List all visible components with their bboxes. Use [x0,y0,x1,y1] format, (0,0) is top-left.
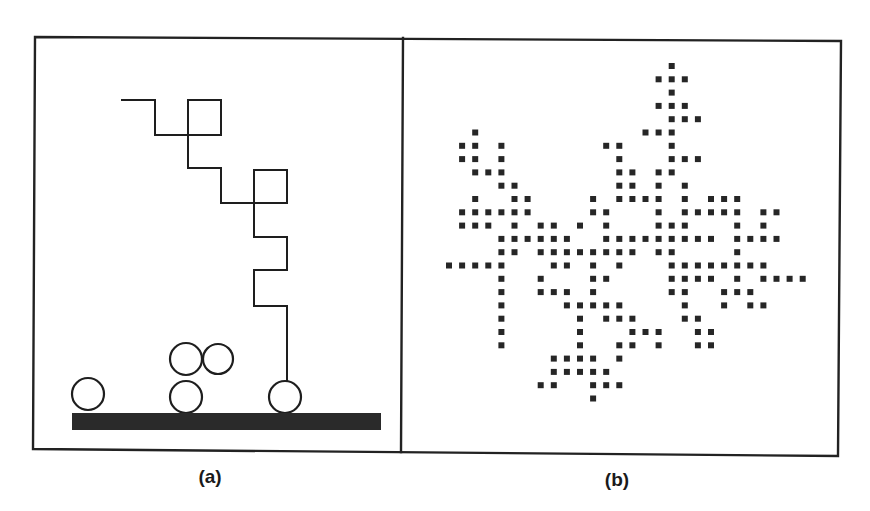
cluster-dot [708,196,714,202]
cluster-dot [774,236,780,242]
cluster-dot [734,289,740,295]
cluster-dot [629,316,635,322]
cluster-dot [629,236,635,242]
cluster-dot [669,143,675,149]
cluster-dot [721,263,727,269]
cluster-dot [643,329,649,335]
cluster-dot [498,183,504,189]
cluster-dot [629,342,635,348]
cluster-dot [577,316,583,322]
cluster-dot [787,276,793,282]
cluster-dot [682,156,688,162]
substrate-bar [72,413,381,430]
cluster-dot [682,316,688,322]
cluster-dot [551,263,557,269]
cluster-dot [498,276,504,282]
cluster-dot [577,369,583,375]
cluster-dot [603,209,609,215]
cluster-dot [747,302,753,308]
cluster-dot [498,236,504,242]
cluster-dot [512,183,518,189]
cluster-dot [538,289,544,295]
cluster-dot [656,236,662,242]
cluster-dot [682,103,688,109]
cluster-dot [682,183,688,189]
cluster-dot [721,302,727,308]
cluster-dot [603,143,609,149]
cluster-dot [564,236,570,242]
cluster-dot [459,143,465,149]
cluster-dot [695,116,701,122]
cluster-dot [734,196,740,202]
cluster-dot [564,369,570,375]
cluster-dot [538,249,544,255]
cluster-dot [485,169,491,175]
cluster-dot [760,223,766,229]
lattice-cluster-dots [446,63,806,402]
cluster-dot [682,209,688,215]
cluster-dot [656,249,662,255]
cluster-dot [760,263,766,269]
cluster-dot [616,156,622,162]
particle-circle [170,343,202,375]
cluster-dot [459,263,465,269]
cluster-dot [577,356,583,362]
cluster-dot [695,209,701,215]
cluster-dot [669,169,675,175]
cluster-dot [669,289,675,295]
cluster-dot [616,183,622,189]
cluster-dot [629,249,635,255]
cluster-dot [590,356,596,362]
cluster-dot [643,130,649,136]
cluster-dot [643,196,649,202]
cluster-dot [708,342,714,348]
cluster-dot [485,263,491,269]
panel-b-dla-cluster [446,63,806,402]
cluster-dot [564,356,570,362]
cluster-dot [525,236,531,242]
cluster-dot [603,236,609,242]
cluster-dot [459,223,465,229]
cluster-dot [498,249,504,255]
cluster-dot [760,236,766,242]
cluster-dot [629,329,635,335]
cluster-dot [734,223,740,229]
cluster-dot [682,116,688,122]
cluster-dot [669,156,675,162]
cluster-dot [577,329,583,335]
cluster-dot [590,302,596,308]
cluster-dot [734,236,740,242]
cluster-dot [656,209,662,215]
particle-circle [203,344,233,374]
cluster-dot [747,263,753,269]
cluster-dot [551,223,557,229]
cluster-dot [669,249,675,255]
panel-b-label: (b) [605,470,629,489]
cluster-dot [734,249,740,255]
cluster-dot [774,209,780,215]
cluster-dot [603,316,609,322]
cluster-dot [512,223,518,229]
cluster-dot [577,342,583,348]
cluster-dot [577,223,583,229]
cluster-dot [472,169,478,175]
figure-canvas [0,0,870,511]
cluster-dot [472,209,478,215]
cluster-dot [734,209,740,215]
cluster-dot [472,263,478,269]
cluster-dot [760,302,766,308]
random-walk-path [122,100,287,380]
cluster-dot [472,130,478,136]
cluster-dot [498,143,504,149]
cluster-dot [708,209,714,215]
cluster-dot [564,302,570,308]
cluster-dot [721,196,727,202]
cluster-dot [721,209,727,215]
cluster-dot [512,209,518,215]
cluster-dot [603,276,609,282]
cluster-dot [577,302,583,308]
cluster-dot [747,289,753,295]
cluster-dot [616,302,622,308]
cluster-dot [629,196,635,202]
cluster-dot [682,302,688,308]
